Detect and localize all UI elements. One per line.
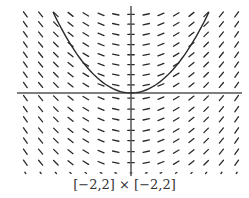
slope-segment xyxy=(83,96,88,99)
slope-segment xyxy=(98,33,104,35)
slope-segment xyxy=(54,117,59,122)
slope-segment xyxy=(113,34,119,35)
slope-segment xyxy=(235,42,239,47)
slope-segment xyxy=(219,62,223,67)
slope-segment xyxy=(68,53,73,57)
slope-segment xyxy=(39,117,43,122)
slope-segment xyxy=(54,22,59,27)
slope-segment xyxy=(98,118,104,120)
slope-segment xyxy=(204,52,209,57)
slope-segment xyxy=(68,96,73,100)
slope-segment xyxy=(219,149,223,154)
slope-segment xyxy=(158,33,164,35)
slope-segment xyxy=(143,54,149,55)
slope-segment xyxy=(219,160,223,165)
slope-segment xyxy=(189,53,194,57)
slope-segment xyxy=(204,96,209,101)
slope-segment xyxy=(83,118,88,121)
slope-segment xyxy=(143,97,149,98)
slope-segment xyxy=(98,139,104,141)
slope-segment xyxy=(219,72,223,77)
slope-segment xyxy=(235,52,239,57)
slope-segment xyxy=(39,160,43,165)
slope-segment xyxy=(158,108,164,110)
slope-segment xyxy=(235,95,239,100)
slope-segment xyxy=(98,74,104,76)
slope-segment xyxy=(204,149,209,154)
slope-segment xyxy=(54,52,59,57)
slope-segment xyxy=(235,107,239,112)
slope-segment xyxy=(23,62,27,67)
slope-segment xyxy=(189,117,194,121)
slope-segment xyxy=(113,14,119,15)
slope-segment xyxy=(143,24,149,25)
slope-segment xyxy=(70,172,71,173)
slope-segment xyxy=(39,42,43,47)
slope-segment xyxy=(191,172,192,173)
slope-segment xyxy=(173,73,178,76)
slope-segment xyxy=(204,83,209,88)
slope-segment xyxy=(158,97,164,99)
slope-segment xyxy=(204,128,209,133)
slope-segment xyxy=(68,32,73,36)
slope-segment xyxy=(39,82,43,87)
slope-segment xyxy=(23,42,27,47)
slope-segment xyxy=(113,64,119,65)
slope-segment xyxy=(204,32,209,37)
slope-segment xyxy=(235,62,239,67)
slope-segment xyxy=(54,107,59,112)
slope-segment xyxy=(189,161,194,165)
slope-segment xyxy=(158,139,164,141)
slope-segment xyxy=(39,52,43,57)
slope-field-plot xyxy=(0,0,249,178)
slope-segment xyxy=(23,149,27,154)
slope-segment xyxy=(219,12,223,17)
slope-segment xyxy=(235,117,239,122)
slope-segment xyxy=(68,22,73,26)
slope-segment xyxy=(189,139,194,143)
slope-segment xyxy=(143,151,149,152)
slope-segment xyxy=(143,119,149,120)
slope-segment xyxy=(98,84,104,86)
slope-segment xyxy=(40,172,41,173)
slope-segment xyxy=(23,32,27,37)
slope-segment xyxy=(85,172,86,173)
slope-segment xyxy=(23,107,27,112)
slope-segment xyxy=(158,23,164,25)
slope-segment xyxy=(23,138,27,143)
slope-segment xyxy=(23,12,27,17)
slope-segment xyxy=(189,32,194,36)
slope-segment xyxy=(68,117,73,121)
slope-segment xyxy=(173,139,178,142)
slope-segment xyxy=(189,150,194,154)
slope-segment xyxy=(113,54,119,55)
slope-segment xyxy=(143,64,149,65)
slope-segment xyxy=(39,62,43,67)
slope-segment xyxy=(113,130,119,131)
slope-segment xyxy=(158,129,164,131)
slope-segment xyxy=(23,72,27,77)
slope-segment xyxy=(158,74,164,76)
slope-segment xyxy=(23,128,27,133)
slope-segment xyxy=(68,63,73,67)
slope-segment xyxy=(158,118,164,120)
slope-segment xyxy=(219,52,223,57)
slope-segment xyxy=(98,63,104,65)
slope-segment xyxy=(204,62,209,67)
slope-segment xyxy=(83,161,88,164)
slope-segment xyxy=(219,128,223,133)
slope-segment xyxy=(173,13,178,16)
slope-segment xyxy=(54,32,59,37)
slope-segment xyxy=(68,12,73,16)
slope-segment xyxy=(113,24,119,25)
slope-segment xyxy=(54,128,59,133)
slope-segment xyxy=(235,128,239,133)
slope-segment xyxy=(98,162,104,164)
slope-segment xyxy=(173,108,178,111)
slope-segment xyxy=(83,108,88,111)
slope-segment xyxy=(55,172,56,173)
slope-segment xyxy=(235,72,239,77)
slope-segment xyxy=(98,108,104,110)
slope-segment xyxy=(83,53,88,56)
slope-segment xyxy=(113,109,119,110)
